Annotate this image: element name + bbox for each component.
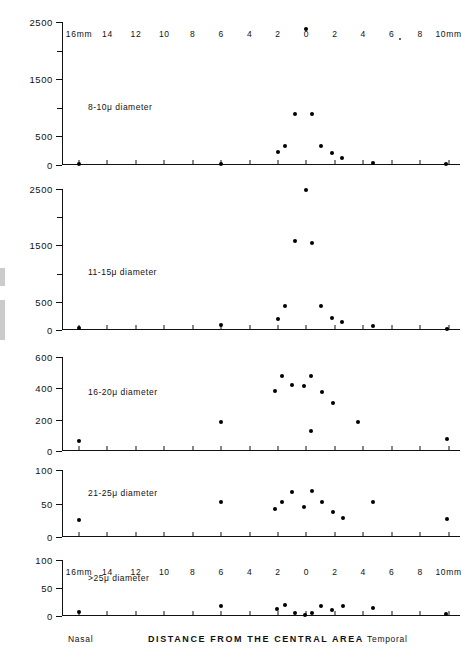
x-tick-label: 4 (247, 29, 252, 39)
x-tick (221, 611, 222, 616)
y-tick-label: 0 (47, 160, 53, 171)
data-point (219, 162, 223, 166)
data-point (276, 317, 280, 321)
x-tick (79, 532, 80, 537)
data-point (219, 500, 223, 504)
y-tick-label: 600 (35, 352, 53, 363)
y-tick-label: 100 (35, 555, 53, 566)
data-point (330, 151, 334, 155)
panel-label: 8-10μ diameter (88, 102, 152, 112)
y-tick (56, 302, 62, 303)
x-tick (363, 611, 364, 616)
x-tick (448, 532, 449, 537)
x-tick (192, 160, 193, 165)
x-tick (107, 611, 108, 616)
y-tick (56, 560, 62, 561)
x-tick-label: 10 (159, 567, 170, 577)
x-tick (249, 611, 250, 616)
x-tick (249, 446, 250, 451)
data-point (310, 112, 314, 116)
data-point (319, 304, 323, 308)
x-tick (334, 532, 335, 537)
x-tick-label: 2 (332, 567, 337, 577)
x-tick (192, 446, 193, 451)
x-tick (192, 611, 193, 616)
x-tick (192, 532, 193, 537)
y-tick (56, 357, 62, 358)
y-tick (56, 420, 62, 421)
x-tick (278, 611, 279, 616)
data-point (341, 516, 345, 520)
x-tick (135, 325, 136, 330)
data-point (309, 429, 313, 433)
x-tick (278, 532, 279, 537)
data-point (302, 384, 306, 388)
x-tick-label: 8 (190, 29, 195, 39)
x-tick-label: 4 (247, 567, 252, 577)
x-tick (334, 446, 335, 451)
y-tick-label: 0 (47, 325, 53, 336)
x-tick-label: 0 (304, 567, 309, 577)
data-point (77, 162, 81, 166)
data-point (371, 606, 375, 610)
x-axis-title: DISTANCE FROM THE CENTRAL AREA (148, 634, 364, 644)
data-point (283, 144, 287, 148)
y-axis (62, 189, 63, 330)
x-tick (221, 446, 222, 451)
data-point (302, 505, 306, 509)
y-tick (56, 616, 62, 617)
data-point (445, 517, 449, 521)
x-tick (135, 611, 136, 616)
x-tick-label: 10mm (435, 567, 461, 577)
x-tick (363, 446, 364, 451)
data-point (275, 607, 279, 611)
data-point (219, 420, 223, 424)
x-tick (363, 325, 364, 330)
figure-root: 05001500250016mm14121086420246810mm 8-10… (0, 0, 468, 650)
data-point (280, 500, 284, 504)
x-tick (306, 160, 307, 165)
panel-8-10u: 05001500250016mm14121086420246810mm 8-10… (0, 22, 468, 165)
data-point (371, 324, 375, 328)
x-tick (334, 325, 335, 330)
x-tick (420, 325, 421, 330)
y-tick (56, 136, 62, 137)
y-tick-label: 2500 (29, 17, 53, 28)
x-tick-label: 6 (389, 567, 394, 577)
x-tick (107, 160, 108, 165)
x-tick-label: 6 (389, 29, 394, 39)
y-tick (56, 165, 62, 166)
x-tick-label: 2 (275, 29, 280, 39)
x-tick (164, 446, 165, 451)
x-tick (363, 160, 364, 165)
y-axis (62, 470, 63, 537)
x-tick (420, 611, 421, 616)
data-point (445, 327, 449, 331)
x-tick (391, 160, 392, 165)
data-point (330, 316, 334, 320)
data-point (276, 150, 280, 154)
x-tick (278, 446, 279, 451)
x-tick (448, 611, 449, 616)
x-tick (192, 325, 193, 330)
data-point (320, 500, 324, 504)
x-tick (391, 532, 392, 537)
y-tick-label: 1500 (29, 74, 53, 85)
y-tick-label: 50 (41, 583, 53, 594)
data-point (341, 604, 345, 608)
y-tick-label: 0 (47, 446, 53, 457)
y-tick-label: 500 (35, 296, 53, 307)
panel-label: 16-20μ diameter (88, 387, 158, 397)
x-tick (278, 325, 279, 330)
y-axis (62, 560, 63, 616)
x-tick (135, 446, 136, 451)
data-point (283, 304, 287, 308)
x-tick (363, 532, 364, 537)
x-tick-label: 6 (218, 29, 223, 39)
panel-16-20u: 0200400600 16-20μ diameter (0, 357, 468, 451)
x-tick-label: 16mm (66, 29, 92, 39)
x-tick (306, 325, 307, 330)
x-tick (391, 611, 392, 616)
y-tick (56, 537, 62, 538)
x-tick (135, 160, 136, 165)
